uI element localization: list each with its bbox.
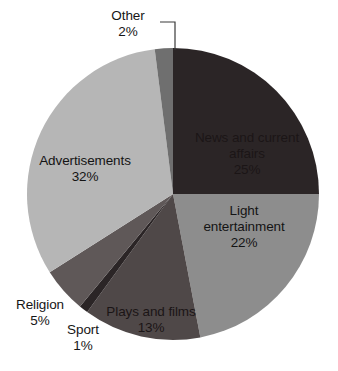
slice-label-value: 2%: [96, 24, 160, 40]
slice-label-value: 25%: [185, 162, 309, 178]
slice-label-other: Other 2%: [96, 8, 160, 40]
slice-label-value: 32%: [24, 169, 146, 185]
slice-label-value: 22%: [185, 235, 303, 251]
slice-label-name: Advertisements: [24, 153, 146, 169]
slice-label-name-line2: entertainment: [185, 219, 303, 235]
slice-label-advertisements: Advertisements 32%: [24, 153, 146, 185]
pie-chart: News and current affairs 25% Light enter…: [0, 0, 338, 371]
slice-label-light-entertainment: Light entertainment 22%: [185, 203, 303, 251]
other-leader-line: [160, 22, 175, 50]
slice-label-value: 1%: [52, 338, 114, 354]
slice-label-name: Light: [185, 203, 303, 219]
slice-label-name: Religion: [2, 297, 78, 313]
slice-label-name: Other: [96, 8, 160, 24]
slice-label-name-line2: affairs: [185, 146, 309, 162]
slice-label-name: Sport: [52, 322, 114, 338]
slice-label-name: Plays and films: [96, 304, 206, 320]
slice-label-news-and-current-affairs: News and current affairs 25%: [185, 130, 309, 178]
slice-label-sport: Sport 1%: [52, 322, 114, 354]
leader-line-path: [160, 22, 175, 50]
slice-label-name: News and current: [185, 130, 309, 146]
